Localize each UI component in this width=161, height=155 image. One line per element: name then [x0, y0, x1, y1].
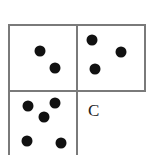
- dot: [87, 35, 98, 46]
- dot: [35, 46, 46, 57]
- cell-label-c: C: [88, 102, 99, 119]
- dot: [56, 138, 67, 149]
- grid-line-right: [144, 24, 146, 92]
- dot: [23, 101, 34, 112]
- dot: [39, 112, 50, 123]
- dot: [116, 47, 127, 58]
- dot: [22, 136, 33, 147]
- dot: [50, 63, 61, 74]
- dot: [50, 98, 61, 109]
- grid-line-left: [8, 24, 10, 155]
- grid-line-middle-vertical: [76, 24, 78, 155]
- dot: [90, 64, 101, 75]
